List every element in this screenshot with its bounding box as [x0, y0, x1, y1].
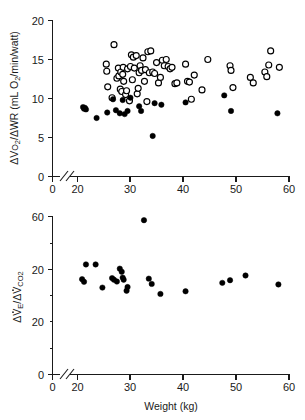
- top-ylabel-paren-rest: /min/watt): [8, 31, 20, 77]
- data-point-open: [188, 96, 194, 102]
- data-point-open: [174, 80, 180, 86]
- data-point-open: [133, 53, 139, 59]
- bottom-y-tick-label-20b: 20: [32, 316, 44, 328]
- top-ylabel-paren-open: (mL O: [8, 81, 20, 113]
- data-point-open: [228, 67, 234, 73]
- top-y-tick-label-10: 10: [32, 93, 44, 105]
- data-point-closed: [149, 281, 154, 286]
- data-point-closed: [114, 279, 119, 284]
- data-point-open: [276, 64, 282, 70]
- data-point-closed: [275, 111, 280, 116]
- data-point-open: [191, 72, 197, 78]
- data-point-closed: [94, 115, 99, 120]
- bottom-y-tick-label-20: 20: [32, 264, 44, 276]
- data-point-closed: [105, 110, 110, 115]
- data-point-open: [131, 65, 137, 71]
- top-ylabel-wr: WR: [8, 112, 20, 130]
- top-y-tick-label-5: 5: [38, 132, 44, 144]
- top-x-tick-label-50: 50: [230, 183, 242, 195]
- bottom-x-tick-label-20: 20: [71, 381, 83, 393]
- data-point-open: [124, 88, 130, 94]
- v-dot-1-icon: [12, 311, 14, 313]
- data-point-closed: [183, 289, 188, 294]
- bottom-x-tick-label-30: 30: [124, 381, 136, 393]
- bottom-x-tick-label-40: 40: [177, 381, 189, 393]
- data-point-open: [250, 80, 256, 86]
- top-x-tick-label-30: 30: [124, 183, 136, 195]
- data-point-open: [183, 61, 189, 67]
- top-ylabel-delta2: Δ: [8, 130, 20, 137]
- data-point-open: [129, 77, 135, 83]
- data-point-closed: [141, 217, 146, 222]
- bottom-ylabel-sub-co: CO: [16, 275, 25, 286]
- bottom-x-tick-label-50: 50: [230, 381, 242, 393]
- data-point-closed: [243, 273, 248, 278]
- data-point-closed: [125, 284, 130, 289]
- data-point-open: [121, 78, 127, 84]
- data-point-open: [144, 99, 150, 105]
- data-point-closed: [110, 97, 115, 102]
- top-y-tick-label-15: 15: [32, 54, 44, 66]
- data-point-closed: [183, 100, 188, 105]
- v-dot-2-icon: [12, 289, 14, 291]
- data-point-open: [230, 85, 236, 91]
- data-point-open: [186, 79, 192, 85]
- data-point-open: [103, 61, 109, 67]
- bottom-ylabel-delta1: Δ: [11, 316, 23, 323]
- data-point-closed: [121, 277, 126, 282]
- figure-svg: 0 5 10 15 20 0 20 30 40 50 60: [0, 0, 305, 420]
- bottom-data-points: [79, 217, 281, 296]
- bottom-ylabel-delta2: Δ: [11, 294, 23, 301]
- top-y-ticks: [48, 21, 53, 177]
- data-point-open: [120, 71, 126, 77]
- data-point-closed: [138, 108, 143, 113]
- top-x-tick-label-60: 60: [283, 183, 295, 195]
- data-point-closed: [120, 97, 125, 102]
- panel-bottom: 0 20 60 20 0 20 30 40 50 60: [11, 211, 295, 394]
- data-point-open: [199, 87, 205, 93]
- data-point-closed: [146, 276, 151, 281]
- bottom-y-ticks: [48, 217, 53, 375]
- top-x-tick-label-20: 20: [71, 183, 83, 195]
- data-point-open: [268, 48, 274, 54]
- data-point-closed: [83, 107, 88, 112]
- top-y-tick-label-0: 0: [38, 171, 44, 183]
- bottom-ylabel-sub2: 2: [16, 271, 25, 275]
- data-point-open: [105, 84, 111, 90]
- data-point-open: [169, 64, 175, 70]
- data-point-closed: [276, 282, 281, 287]
- bottom-y-axis-title: ΔVE/ΔVCO2: [11, 271, 25, 322]
- top-ylabel-v: V: [8, 151, 20, 158]
- data-point-open: [135, 85, 141, 91]
- data-point-open: [266, 62, 272, 68]
- data-point-closed: [152, 100, 157, 105]
- x-axis-label: Weight (kg): [144, 400, 198, 412]
- data-point-closed: [81, 279, 86, 284]
- data-point-open: [141, 78, 147, 84]
- top-y-axis-title: ΔVO2/ΔWR (mL O2/min/watt): [8, 31, 22, 165]
- top-x-ticks: [53, 177, 290, 182]
- data-point-closed: [125, 108, 130, 113]
- bottom-x-tick-label-60: 60: [283, 381, 295, 393]
- data-point-open: [157, 74, 163, 80]
- top-ylabel-delta1: Δ: [8, 158, 20, 165]
- data-point-closed: [119, 269, 124, 274]
- bottom-x-ticks: [53, 375, 290, 380]
- data-point-closed: [100, 285, 105, 290]
- data-point-closed: [128, 95, 133, 100]
- svg-text:ΔVE/ΔVCO2: ΔVE/ΔVCO2: [11, 271, 25, 322]
- data-point-closed: [227, 278, 232, 283]
- data-point-open: [140, 55, 146, 61]
- data-point-closed: [150, 133, 155, 138]
- panel-top: 0 5 10 15 20 0 20 30 40 50 60: [8, 15, 295, 196]
- data-point-closed: [93, 262, 98, 267]
- data-point-open: [264, 74, 270, 80]
- data-point-closed: [83, 262, 88, 267]
- top-data-points: [80, 42, 282, 139]
- data-point-open: [148, 48, 154, 54]
- bottom-y-tick-label-60: 60: [32, 211, 44, 223]
- data-point-open: [163, 57, 169, 63]
- data-point-open: [104, 68, 110, 74]
- top-x-tick-label-0: 0: [49, 183, 55, 195]
- bottom-x-tick-label-0: 0: [49, 381, 55, 393]
